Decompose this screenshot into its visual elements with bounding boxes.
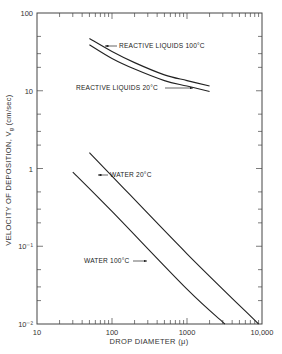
deposition-velocity-chart: 10100100010,000 10010110⁻¹10⁻² REACTIVE … bbox=[0, 0, 282, 354]
series-line-3 bbox=[73, 172, 225, 324]
y-tick-labels: 10010110⁻¹10⁻² bbox=[18, 9, 33, 329]
y-tick-label: 10 bbox=[25, 87, 33, 96]
y-tick-label: 100 bbox=[20, 9, 33, 18]
x-tick-label: 1000 bbox=[179, 328, 196, 337]
x-tick-label: 10,000 bbox=[251, 328, 274, 337]
annotations: REACTIVE LIQUIDS 100°CREACTIVE LIQUIDS 2… bbox=[76, 42, 205, 264]
y-tick-label: 10⁻¹ bbox=[18, 242, 33, 251]
x-axis-title: DROP DIAMETER (μ) bbox=[110, 337, 189, 346]
annotation-label: REACTIVE LIQUIDS 100°C bbox=[119, 42, 205, 50]
x-tick-labels: 10100100010,000 bbox=[33, 328, 274, 337]
data-series bbox=[73, 38, 259, 324]
series-line-2 bbox=[89, 153, 258, 324]
plot-frame bbox=[37, 13, 262, 324]
x-tick-label: 100 bbox=[106, 328, 119, 337]
y-axis-title: VELOCITY OF DEPOSITION, Vg (cm/sec) bbox=[4, 94, 14, 246]
y-axis-title-main: VELOCITY OF DEPOSITION, V bbox=[4, 131, 13, 245]
y-tick-label: 10⁻² bbox=[18, 320, 33, 329]
annotation-label: WATER 100°C bbox=[84, 257, 130, 264]
annotation-label: REACTIVE LIQUIDS 20°C bbox=[76, 84, 158, 92]
annotation-label: WATER 20°C bbox=[110, 171, 152, 178]
y-axis-title-unit: (cm/sec) bbox=[4, 94, 13, 128]
axis-ticks bbox=[37, 13, 262, 324]
y-tick-label: 1 bbox=[29, 165, 33, 174]
x-tick-label: 10 bbox=[33, 328, 41, 337]
